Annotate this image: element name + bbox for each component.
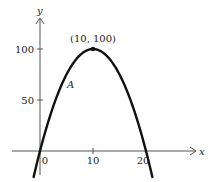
point-a-label: A xyxy=(66,79,74,90)
vertex-point xyxy=(91,47,95,51)
y-tick-label-100: 100 xyxy=(15,44,34,55)
x-tick-label-0: 0 xyxy=(42,155,48,166)
parabola-chart: x y 100 50 10 0 20 (10, 100) A xyxy=(0,0,212,182)
x-tick-label-10: 10 xyxy=(87,155,100,166)
y-tick-label-50: 50 xyxy=(21,95,34,106)
y-axis-label: y xyxy=(36,5,43,16)
x-axis-label: x xyxy=(199,146,205,157)
vertex-label: (10, 100) xyxy=(70,33,116,44)
